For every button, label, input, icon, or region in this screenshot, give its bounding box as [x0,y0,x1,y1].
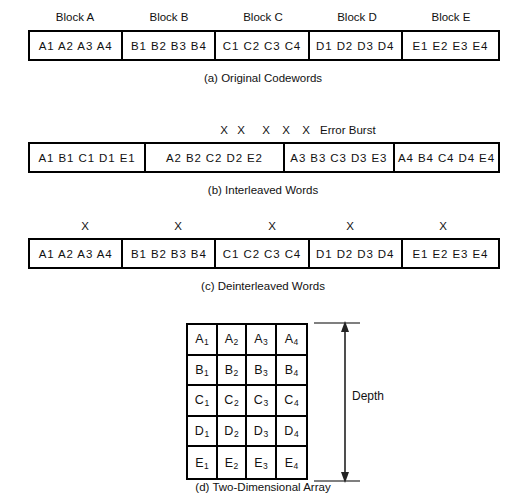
codeword-block-e: E1 E2 E3 E4 [403,32,498,59]
matrix-cell-index: 4 [294,429,299,439]
matrix-cell: C1 [188,386,218,417]
caption-panel-d: (d) Two-Dimensional Array [0,481,526,493]
matrix-cell-index: 1 [204,461,209,471]
matrix-cell: E4 [277,447,307,478]
deinterleaved-error-mark-c: X [266,220,278,232]
matrix-cell-letter: D [195,424,204,438]
matrix-cell-letter: D [284,424,293,438]
block-label-c: Block C [216,10,310,24]
deinterleaved-block-b-text: B1 B2 B3 B4 [131,248,207,260]
matrix-cell-letter: C [254,393,263,407]
depth-label: Depth [352,389,384,403]
matrix-cell-letter: B [225,363,233,377]
matrix-cell-letter: B [195,363,203,377]
matrix-cell-index: 4 [294,337,299,347]
deinterleaved-block-c: C1 C2 C3 C4 [216,240,309,267]
codeword-block-a-text: A1 A2 A3 A4 [39,40,113,52]
interleaved-word-1: A1 B1 C1 D1 E1 [30,144,146,171]
error-burst-label: Error Burst [320,124,376,136]
strip-original-codewords: A1 A2 A3 A4 B1 B2 B3 B4 C1 C2 C3 C4 D1 D… [28,30,500,61]
block-label-e: Block E [404,10,498,24]
matrix-cell-letter: B [254,363,262,377]
matrix-cell-index: 1 [204,337,209,347]
matrix-cell: B1 [188,356,218,387]
matrix-cell: D1 [188,417,218,448]
codeword-block-d-text: D1 D2 D3 D4 [316,40,394,52]
deinterleaved-block-e-text: E1 E2 E3 E4 [413,248,489,260]
matrix-cell: B2 [218,356,248,387]
deinterleaved-block-a: A1 A2 A3 A4 [30,240,123,267]
matrix-cell-letter: A [285,332,293,346]
block-label-b: Block B [122,10,216,24]
interleaved-word-4-text: A4 B4 C4 D4 E4 [398,152,495,164]
interleaver-matrix: A1 A2 A3 A4 B1 B2 B3 B4 C1 C2 C3 C4 D1 D… [186,323,308,480]
matrix-cell: C3 [247,386,277,417]
matrix-cell-index: 2 [234,398,239,408]
matrix-cell: E3 [247,447,277,478]
deinterleaved-block-d-text: D1 D2 D3 D4 [316,248,394,260]
matrix-cell-letter: E [225,456,233,470]
matrix-cell-letter: E [254,456,262,470]
matrix-cell-index: 3 [263,429,268,439]
matrix-cell-index: 1 [204,368,209,378]
caption-panel-c: (c) Deinterleaved Words [0,280,526,292]
error-mark-1: X [218,124,230,136]
codeword-block-e-text: E1 E2 E3 E4 [413,40,489,52]
matrix-cell: A2 [218,325,248,356]
matrix-cell-index: 2 [234,368,239,378]
matrix-cell-index: 4 [294,398,299,408]
matrix-cell-letter: C [224,393,233,407]
matrix-cell-index: 1 [204,429,209,439]
matrix-cell: A3 [247,325,277,356]
matrix-cell: C4 [277,386,307,417]
deinterleaved-error-mark-e: X [437,220,449,232]
deinterleaved-block-b: B1 B2 B3 B4 [123,240,216,267]
matrix-cell: A1 [188,325,218,356]
deinterleaved-error-mark-b: X [172,220,184,232]
matrix-cell-letter: A [195,332,203,346]
deinterleaved-error-mark-d: X [344,220,356,232]
matrix-cell-index: 2 [234,337,239,347]
matrix-cell: E1 [188,447,218,478]
block-label-d: Block D [310,10,404,24]
caption-panel-a: (a) Original Codewords [0,72,526,84]
matrix-cell-index: 2 [234,429,239,439]
matrix-cell: D3 [247,417,277,448]
matrix-cell: C2 [218,386,248,417]
matrix-cell-letter: E [285,456,293,470]
matrix-cell-index: 1 [204,398,209,408]
interleaved-word-1-text: A1 B1 C1 D1 E1 [39,152,136,164]
matrix-cell-index: 2 [234,461,239,471]
deinterleaved-block-e: E1 E2 E3 E4 [403,240,498,267]
interleaved-word-3-text: A3 B3 C3 D3 E3 [290,152,387,164]
matrix-cell: B4 [277,356,307,387]
interleaved-word-4: A4 B4 C4 D4 E4 [395,144,498,171]
matrix-cell-letter: C [284,393,293,407]
deinterleaved-block-a-text: A1 A2 A3 A4 [39,248,113,260]
matrix-cell-index: 3 [263,368,268,378]
matrix-cell-letter: E [195,456,203,470]
matrix-cell-index: 3 [263,461,268,471]
matrix-cell-index: 4 [294,368,299,378]
matrix-cell: A4 [277,325,307,356]
error-mark-2: X [235,124,247,136]
deinterleaved-block-d: D1 D2 D3 D4 [310,240,403,267]
matrix-cell-index: 3 [263,337,268,347]
matrix-cell-letter: A [254,332,262,346]
matrix-cell: B3 [247,356,277,387]
caption-panel-b: (b) Interleaved Words [0,184,526,196]
codeword-block-d: D1 D2 D3 D4 [310,32,403,59]
matrix-cell-letter: C [195,393,204,407]
matrix-cell: D2 [218,417,248,448]
codeword-block-c: C1 C2 C3 C4 [216,32,309,59]
codeword-block-b: B1 B2 B3 B4 [123,32,216,59]
error-mark-3: X [260,124,272,136]
codeword-block-b-text: B1 B2 B3 B4 [131,40,207,52]
figure-canvas: Block A Block B Block C Block D Block E … [0,0,526,498]
deinterleaved-block-c-text: C1 C2 C3 C4 [223,248,301,260]
error-mark-4: X [280,124,292,136]
matrix-cell-letter: A [225,332,233,346]
matrix-cell-index: 4 [294,461,299,471]
interleaved-word-2-text: A2 B2 C2 D2 E2 [166,152,263,164]
error-mark-5: X [300,124,312,136]
